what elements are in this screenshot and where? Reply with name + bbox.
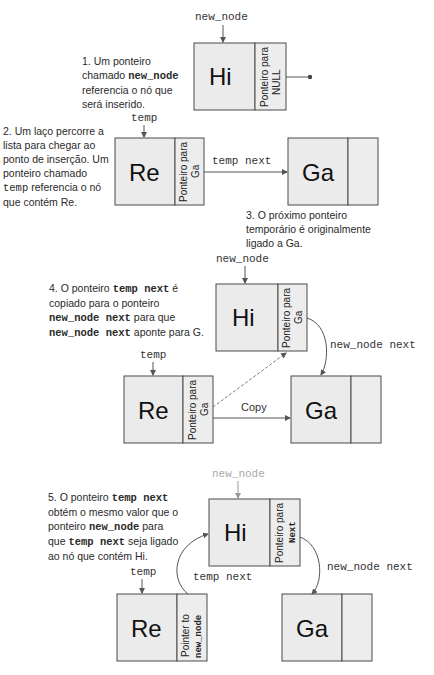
- note-text: que: [48, 535, 68, 547]
- note-line: 2. Um laço percorre a: [3, 124, 113, 138]
- note-line: 3. O próximo ponteiro: [246, 208, 386, 222]
- step-2: temp Re Ponteiro para Ga temp next Ga: [115, 112, 378, 205]
- temp-label: temp: [130, 566, 156, 578]
- note-text: para: [139, 520, 163, 532]
- note-text: 5. O ponteiro: [48, 491, 112, 503]
- note-code: temp next: [113, 283, 170, 295]
- note-code: new_node next: [49, 312, 131, 324]
- new-node-label: new_node: [212, 468, 265, 480]
- curved-arrow-icon: [307, 318, 327, 375]
- node-pointer-cell: [351, 376, 381, 443]
- note-text: ponteiro: [48, 520, 89, 532]
- step-1: new_node Hi Ponteiro para NULL: [194, 11, 312, 110]
- node-value: Ga: [296, 615, 329, 642]
- node-value: Re: [138, 397, 169, 424]
- note-text: chamado: [82, 69, 128, 81]
- note-line: chamado new_node: [82, 68, 192, 83]
- null-dot-icon: [308, 75, 312, 79]
- note-text: referencia o nó: [28, 181, 101, 193]
- pointer-text-2: new_node: [194, 615, 204, 658]
- step-2-note: 2. Um laço percorre a lista para chegar …: [3, 124, 113, 209]
- pointer-text-2: NULL: [271, 69, 282, 95]
- note-line: obtém o mesmo valor que o: [48, 505, 198, 519]
- note-code: temp next: [112, 492, 169, 504]
- new-node-label: new_node: [216, 253, 269, 265]
- note-line: lista para chegar ao: [3, 138, 113, 152]
- node-pointer-cell: [348, 138, 378, 205]
- node-hi: Hi Ponteiro para Next: [209, 499, 300, 566]
- pointer-text-1: Ponteiro para: [274, 503, 285, 563]
- note-line: 5. O ponteiro temp next: [48, 490, 198, 505]
- note-text: 4. O ponteiro: [49, 282, 113, 294]
- pointer-text-1: Ponteiro para: [178, 142, 189, 202]
- note-line: new_node next para que: [49, 310, 219, 325]
- note-line: new_node next aponte para G.: [49, 325, 219, 340]
- note-text: seja ligado: [125, 535, 178, 547]
- temp-next-label: temp next: [212, 155, 271, 167]
- pointer-text-1: Ponteiro para: [281, 288, 292, 348]
- pointer-text-2: Ga: [190, 164, 201, 178]
- note-line: ponteiro chamado: [3, 166, 113, 180]
- step-5-note: 5. O ponteiro temp next obtém o mesmo va…: [48, 490, 198, 563]
- note-text: para que: [131, 311, 175, 323]
- copy-label: Copy: [241, 401, 267, 413]
- note-code: new_node next: [49, 327, 131, 339]
- node-ga: Ga: [282, 594, 372, 661]
- note-line: copiado para o ponteiro: [49, 296, 219, 310]
- node-ga: Ga: [291, 376, 381, 443]
- note-line: temporário é originalmente: [246, 222, 386, 236]
- note-code: new_node: [128, 70, 178, 82]
- pointer-text-2: Next: [288, 521, 298, 543]
- node-value: Hi: [224, 519, 247, 546]
- node-value: Hi: [232, 304, 255, 331]
- step-4-note: 4. O ponteiro temp next é copiado para o…: [49, 281, 219, 340]
- node-hi: Hi Ponteiro para NULL: [194, 43, 286, 110]
- pointer-text-1: Ponteiro para: [187, 380, 198, 440]
- note-line: ponteiro new_node para: [48, 519, 198, 534]
- note-line: ao nó que contém Hi.: [48, 549, 198, 563]
- note-line: 1. Um ponteiro: [82, 54, 192, 68]
- temp-label: temp: [140, 349, 166, 361]
- dashed-copy-arrow-icon: [213, 353, 286, 407]
- note-line: ponto de inserção. Um: [3, 152, 113, 166]
- note-line: que contém Re.: [3, 195, 113, 209]
- node-re: Re Pointer to new_node: [117, 594, 207, 661]
- node-value: Re: [131, 615, 162, 642]
- note-text: aponte para G.: [131, 326, 204, 338]
- node-value: Re: [129, 159, 160, 186]
- node-value: Ga: [302, 159, 335, 186]
- node-hi: Hi Ponteiro para Ga: [216, 284, 307, 351]
- step-3-note: 3. O próximo ponteiro temporário é origi…: [246, 208, 386, 250]
- note-code: new_node: [89, 521, 139, 533]
- pointer-text-2: Ga: [293, 310, 304, 324]
- new-node-next-label: new_node next: [330, 339, 416, 351]
- note-line: que temp next seja ligado: [48, 534, 198, 549]
- node-value: Hi: [209, 63, 232, 90]
- node-pointer-cell: [342, 594, 372, 661]
- note-line: será inserido.: [82, 97, 192, 111]
- note-line: ligado a Ga.: [246, 236, 386, 250]
- temp-label: temp: [131, 112, 157, 124]
- step-1-note: 1. Um ponteiro chamado new_node referenc…: [82, 54, 192, 111]
- note-line: temp referencia o nó: [3, 180, 113, 195]
- temp-next-label: temp next: [193, 571, 252, 583]
- pointer-text-2: Ga: [199, 402, 210, 416]
- curved-arrow-icon: [300, 537, 320, 594]
- node-ga: Ga: [288, 138, 378, 205]
- note-line: 4. O ponteiro temp next é: [49, 281, 219, 296]
- node-re: Re Ponteiro para Ga: [124, 376, 213, 443]
- note-text: é: [169, 282, 178, 294]
- note-code: temp next: [68, 536, 125, 548]
- new-node-next-label: new_node next: [327, 561, 413, 573]
- pointer-text-1: Ponteiro para: [259, 47, 270, 107]
- pointer-text-1: Pointer to: [180, 614, 191, 657]
- note-line: referencia o nó que: [82, 83, 192, 97]
- node-value: Ga: [305, 397, 338, 424]
- note-code: temp: [3, 182, 28, 194]
- node-re: Re Ponteiro para Ga: [115, 138, 204, 205]
- new-node-label: new_node: [195, 11, 248, 23]
